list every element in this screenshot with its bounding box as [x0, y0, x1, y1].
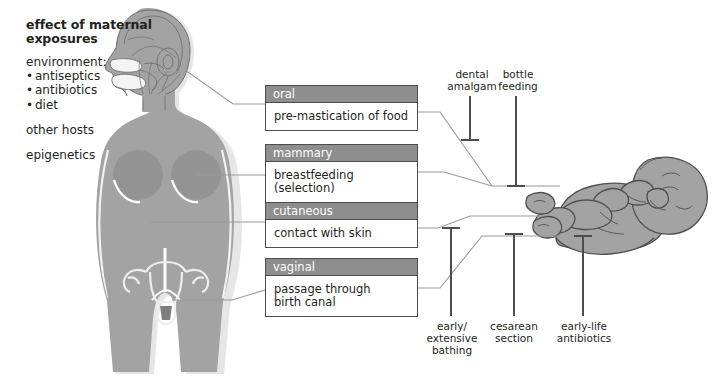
blocker-early-life-antibiotics	[574, 236, 592, 316]
connector-mammary-infant	[418, 172, 492, 186]
connector-oral-infant	[418, 112, 560, 186]
exposure-cesarean-line2: section	[482, 332, 546, 344]
route-box-oral: oral pre-mastication of food	[265, 85, 418, 131]
exposure-bathing-line3: bathing	[420, 344, 484, 356]
exposure-bottle-line2: feeding	[489, 80, 547, 92]
exposure-bathing-line1: early/	[420, 320, 484, 332]
connector-cutaneous-infant	[418, 216, 540, 228]
connector-vaginal-source	[172, 290, 265, 300]
environment-item-antibiotics: antibiotics	[26, 83, 166, 97]
route-body-mammary: breastfeeding (selection)	[266, 162, 417, 202]
blocker-early-bathing	[442, 228, 460, 316]
exposure-label-bottle-feeding: bottle feeding	[489, 68, 547, 92]
blocker-bottle-feeding	[507, 96, 525, 186]
caption-title-line1: effect of maternal	[26, 18, 166, 32]
caption-other-hosts: other hosts	[26, 123, 166, 137]
exposure-antibiotics-line2: antibiotics	[548, 332, 620, 344]
environment-item-diet: diet	[26, 98, 166, 112]
exposure-bottle-line1: bottle	[489, 68, 547, 80]
route-header-oral: oral	[266, 86, 417, 103]
connector-vaginal-infant	[418, 236, 560, 288]
caption-title: effect of maternal exposures	[26, 18, 166, 45]
infant-detail	[534, 158, 692, 234]
blocker-cesarean-section	[505, 234, 523, 316]
exposure-antibiotics-line1: early-life	[548, 320, 620, 332]
route-box-mammary: mammary breastfeeding (selection)	[265, 144, 418, 203]
cervix-marker	[160, 306, 172, 320]
exposure-label-early-life-antibiotics: early-life antibiotics	[548, 320, 620, 344]
environment-label: environment:	[26, 55, 166, 69]
breast-right	[171, 150, 221, 202]
route-body-cutaneous: contact with skin	[266, 220, 417, 247]
exposure-label-early-bathing: early/ extensive bathing	[420, 320, 484, 357]
route-body-vaginal: passage through birth canal	[266, 276, 417, 316]
route-body-oral: pre-mastication of food	[266, 103, 417, 130]
caption-title-line2: exposures	[26, 32, 166, 46]
caption-epigenetics: epigenetics	[26, 148, 166, 162]
exposure-label-cesarean-section: cesarean section	[482, 320, 546, 344]
route-box-cutaneous: cutaneous contact with skin	[265, 202, 418, 248]
route-header-mammary: mammary	[266, 145, 417, 162]
caption-block: effect of maternal exposures environment…	[26, 18, 166, 162]
mother-arm-shading	[99, 150, 230, 300]
environment-item-antiseptics: antiseptics	[26, 69, 166, 83]
environment-group: environment: antiseptics antibiotics die…	[26, 55, 166, 112]
exposure-bathing-line2: extensive	[420, 332, 484, 344]
route-box-vaginal: vaginal passage through birth canal	[265, 258, 418, 317]
route-header-vaginal: vaginal	[266, 259, 417, 276]
route-body-vaginal-line2: birth canal	[274, 296, 410, 309]
route-header-cutaneous: cutaneous	[266, 203, 417, 220]
diagram-canvas: effect of maternal exposures environment…	[0, 0, 727, 380]
infant-figure	[526, 157, 707, 254]
blocker-dental-amalgam	[461, 96, 479, 140]
exposure-cesarean-line1: cesarean	[482, 320, 546, 332]
uterus-illustration	[124, 262, 208, 324]
